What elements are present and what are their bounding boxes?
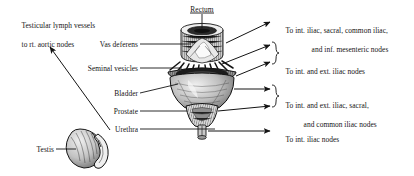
label-drainage-urethra: To int. iliac nodes <box>278 126 339 154</box>
arrow-prostate-drainage <box>218 106 270 111</box>
arrow-seminal-vesicles-drainage <box>236 62 270 76</box>
label-drainage-rectum: To int. iliac, sacral, common iliac, and… <box>278 17 388 63</box>
label-testicular-lymph-vessels: Testicular lymph vessels to rt. aortic n… <box>14 12 95 58</box>
structure-bladder <box>170 73 234 113</box>
leader-bladder <box>140 84 178 93</box>
structure-rectum <box>181 23 223 62</box>
label-testis: Testis <box>18 145 54 154</box>
label-drainage-vesicles-line1: To int. and ext. iliac nodes <box>285 67 365 76</box>
arrow-vas-deferens-drainage <box>222 45 270 64</box>
label-prostate: Prostate <box>48 107 138 116</box>
label-drainage-rectum-line1: To int. iliac, sacral, common iliac, <box>285 26 387 35</box>
label-drainage-urethra-line1: To int. iliac nodes <box>285 135 339 144</box>
label-bladder: Bladder <box>48 89 138 98</box>
label-drainage-bladder-prostate-line1: To int. and ext. iliac, sacral, <box>285 101 368 110</box>
structure-urethra <box>198 125 207 139</box>
label-vas-deferens: Vas deferens <box>38 40 138 49</box>
structure-prostate <box>186 104 218 128</box>
drainage-arrows <box>208 22 270 131</box>
arrow-rectum-drainage <box>226 22 270 43</box>
label-urethra: Urethra <box>48 125 138 134</box>
figure-canvas: Testicular lymph vessels to rt. aortic n… <box>0 0 414 176</box>
structure-seminal-vesicles <box>168 61 236 82</box>
structure-vas-deferens <box>186 38 219 63</box>
structure-testis <box>66 129 108 168</box>
label-seminal-vesicles: Seminal vesicles <box>38 64 138 73</box>
label-rectum: Rectum <box>166 5 238 14</box>
label-drainage-vesicles: To int. and ext. iliac nodes <box>278 58 365 86</box>
label-testicular-lymph-vessels-line1: Testicular lymph vessels <box>21 21 95 30</box>
label-drainage-rectum-line2: and inf. mesenteric nodes <box>286 45 389 54</box>
